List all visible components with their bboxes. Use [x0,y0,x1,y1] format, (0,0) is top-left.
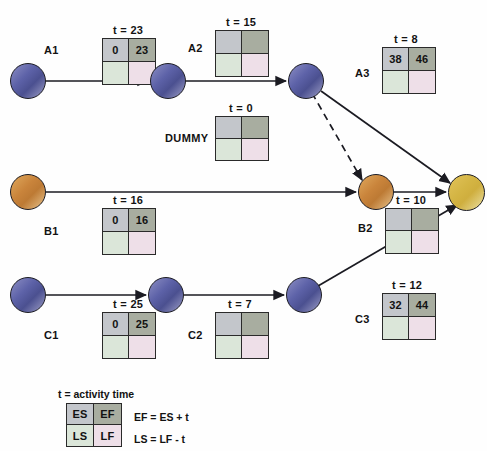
cell-lf-a3 [409,71,435,94]
activity-label-dummy: DUMMY [165,132,209,144]
time-box-c2 [215,312,269,359]
legend-cell-es: ES [67,404,94,425]
activity-label-a2: A2 [188,42,203,54]
cell-ef-c3: 44 [409,294,435,317]
cell-ls-c2 [216,336,242,359]
time-box-dummy [215,116,269,161]
legend-equation-ls: LS = LF - t [134,433,185,445]
cell-lf-b1 [129,232,155,255]
node-a-end[interactable] [288,63,324,99]
legend-title: t = activity time [58,388,134,400]
activity-label-c3: C3 [355,313,370,325]
time-box-b1: 0 16 [102,208,156,255]
node-a-mid[interactable] [150,63,186,99]
cell-lf-c2 [242,336,268,359]
activity-label-a1: A1 [44,44,59,56]
cell-ls-a3 [383,71,409,94]
activity-label-a3: A3 [355,67,370,79]
cell-lf-a2 [242,54,268,77]
activity-label-b2: B2 [358,222,373,234]
cell-es-c3: 32 [383,294,409,317]
cell-ls-c1 [103,336,129,359]
legend-time-box: ES EF LS LF [66,403,122,447]
cell-ef-a3: 46 [409,48,435,71]
time-box-c3: 32 44 [382,293,436,340]
edge-dummy [312,93,362,180]
cell-ls-b2 [386,231,412,253]
node-c-end[interactable] [286,277,322,313]
node-c-start[interactable] [10,277,46,313]
time-box-a1: 0 23 [102,38,156,85]
legend-cell-lf: LF [94,425,121,446]
time-label-b2: t = 10 [396,194,426,206]
cell-ls-b1 [103,232,129,255]
cell-ls-a1 [103,62,129,85]
time-label-a1: t = 23 [113,24,143,36]
node-a-start[interactable] [10,63,46,99]
legend: t = activity time ES EF LS LF EF = ES + … [58,388,298,448]
time-label-a3: t = 8 [394,33,418,45]
cell-ef-c2 [242,313,268,336]
activity-label-c1: C1 [44,329,59,341]
edge-a3 [321,91,450,183]
legend-equation-ef: EF = ES + t [134,411,189,423]
cell-ef-a1: 23 [129,39,155,62]
activity-label-b1: B1 [44,225,59,237]
cell-ls-a2 [216,54,242,77]
activity-label-c2: C2 [188,329,203,341]
time-label-b1: t = 16 [113,194,143,206]
time-box-b2 [385,208,439,254]
cell-ls-c3 [383,317,409,340]
time-box-a3: 38 46 [382,47,436,94]
cell-ef-b2 [412,209,438,231]
cell-es-a2 [216,31,242,54]
node-b-start[interactable] [10,174,46,210]
node-b-mid[interactable] [358,174,394,210]
time-label-c3: t = 12 [392,279,422,291]
cell-es-dummy [216,117,242,139]
node-project-end[interactable] [448,174,485,211]
cell-ef-a2 [242,31,268,54]
network-diagram-canvas: t = 23 A1 0 23 t = 15 A2 t = 0 DUMMY t =… [0,0,487,451]
cell-es-c1: 0 [103,313,129,336]
time-box-a2 [215,30,269,77]
cell-lf-c1 [129,336,155,359]
cell-ef-b1: 16 [129,209,155,232]
cell-ls-dummy [216,139,242,161]
cell-lf-b2 [412,231,438,253]
cell-es-b2 [386,209,412,231]
cell-es-b1: 0 [103,209,129,232]
cell-lf-c3 [409,317,435,340]
cell-es-a3: 38 [383,48,409,71]
time-label-dummy: t = 0 [229,102,253,114]
legend-cell-ef: EF [94,404,121,425]
legend-cell-ls: LS [67,425,94,446]
time-label-c1: t = 25 [113,298,143,310]
cell-ef-c1: 25 [129,313,155,336]
time-label-c2: t = 7 [228,298,252,310]
cell-lf-dummy [242,139,268,161]
time-label-a2: t = 15 [226,16,256,28]
cell-es-c2 [216,313,242,336]
node-c-mid[interactable] [148,277,184,313]
time-box-c1: 0 25 [102,312,156,359]
cell-ef-dummy [242,117,268,139]
cell-es-a1: 0 [103,39,129,62]
